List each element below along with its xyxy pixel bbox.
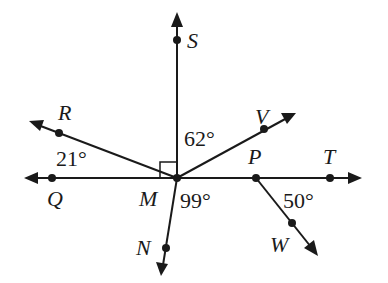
diagram-svg: S R Q M V P T N W 21° 62° 99° 50° [0,0,388,283]
angle-label-99: 99° [180,188,211,213]
label-p: P [247,144,261,169]
point-m [173,174,181,182]
label-w: W [270,232,290,257]
label-n: N [135,235,152,260]
angle-label-62: 62° [184,126,215,151]
arrow-right-icon [348,172,362,184]
point-w [288,219,296,227]
ray-mn [163,178,177,265]
point-n [162,244,170,252]
label-r: R [57,100,72,125]
label-q: Q [47,186,63,211]
arrow-n-icon [156,262,168,276]
geometry-diagram: S R Q M V P T N W 21° 62° 99° 50° [0,0,388,283]
angle-label-21: 21° [56,146,87,171]
point-p [252,174,260,182]
point-r [55,129,63,137]
label-s: S [187,28,198,53]
point-s [173,36,181,44]
arrow-up-icon [171,12,183,27]
point-t [326,174,334,182]
point-q [48,174,56,182]
arrow-v-icon [281,113,296,124]
arrow-r-icon [29,120,44,131]
label-m: M [138,186,159,211]
arrow-left-icon [24,172,38,184]
label-t: T [323,144,337,169]
angle-label-50: 50° [283,188,314,213]
label-v: V [255,104,271,129]
